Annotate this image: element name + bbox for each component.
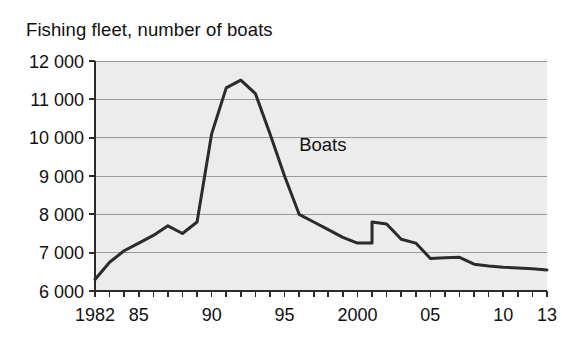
svg-text:90: 90: [202, 305, 222, 325]
plot-container: 12 00011 00010 0009 0008 0007 0006 000 1…: [0, 0, 562, 344]
x-axis-tick-labels: 19828590952000051013: [75, 305, 557, 325]
svg-text:2000: 2000: [337, 305, 377, 325]
chart-root: Fishing fleet, number of boats 12 00011 …: [0, 0, 562, 344]
svg-text:7 000: 7 000: [39, 243, 84, 263]
svg-text:95: 95: [275, 305, 295, 325]
line-chart: 12 00011 00010 0009 0008 0007 0006 000 1…: [0, 0, 562, 344]
svg-text:12 000: 12 000: [29, 52, 84, 72]
svg-text:11 000: 11 000: [30, 90, 84, 110]
svg-text:10: 10: [493, 305, 513, 325]
svg-text:10 000: 10 000: [29, 128, 84, 148]
svg-text:05: 05: [420, 305, 440, 325]
y-axis-tick-labels: 12 00011 00010 0009 0008 0007 0006 000: [29, 52, 84, 302]
svg-text:13: 13: [537, 305, 557, 325]
svg-text:8 000: 8 000: [39, 205, 84, 225]
svg-text:1982: 1982: [75, 305, 115, 325]
series-annotations: Boats: [299, 134, 346, 155]
svg-text:9 000: 9 000: [39, 167, 84, 187]
svg-text:6 000: 6 000: [39, 282, 84, 302]
svg-text:85: 85: [129, 305, 149, 325]
annotation-boats: Boats: [299, 134, 346, 155]
